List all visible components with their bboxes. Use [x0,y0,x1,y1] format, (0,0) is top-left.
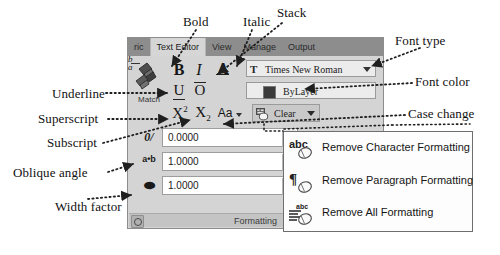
panel-dialog-launcher-icon[interactable] [131,215,144,228]
remove-all-formatting-icon: abc [288,202,318,228]
subscript-mark: 2 [206,113,211,123]
tab-output[interactable]: Output [282,38,321,56]
oblique-angle-row: 0/ 0.0000 [138,128,298,148]
oblique-angle-icon: 0/ [138,130,160,145]
subscript-base: X [195,104,206,120]
clear-button[interactable]: Clear [252,104,320,122]
tab-manage[interactable]: Manage [237,38,282,56]
annotation-font-color: Font color [415,74,470,90]
stack-button[interactable]: A [215,61,231,77]
tracking-icon: a•b [138,154,160,164]
annotation-underline: Underline [52,86,105,102]
annotation-case-change: Case change [408,106,474,122]
match-label: Match [131,95,167,104]
bold-button[interactable]: B [172,62,186,78]
case-change-chevron-down-icon[interactable] [236,113,242,117]
font-color-value: ByLayer [283,86,318,97]
annotation-font-type: Font type [395,33,445,49]
tracking-row: a•b 1.0000 [138,152,298,172]
oblique-angle-field[interactable]: 0.0000 [162,128,298,147]
panel-title: Formatting [234,216,277,226]
width-factor-icon: ⬬ [138,178,160,194]
italic-button[interactable]: I [194,62,204,78]
menu-item-remove-all-formatting[interactable]: abc Remove All Formatting [288,200,472,230]
svg-text:¶: ¶ [289,171,297,187]
font-type-combobox[interactable]: T Times New Roman [246,60,376,77]
subscript-button[interactable]: X2 [195,105,211,123]
width-factor-field[interactable]: 1.0000 [162,176,298,195]
menu-item-label: Remove Paragraph Formatting [322,174,473,186]
width-factor-row: ⬬ 1.0000 [138,176,298,196]
menu-item-label: Remove Character Formatting [322,141,470,153]
menu-item-remove-character-formatting[interactable]: abc Remove Character Formatting [288,135,472,165]
font-color-swatch [263,86,276,99]
oblique-angle-value: 0.0000 [168,132,199,143]
remove-character-formatting-icon: abc [288,137,318,163]
tab-view[interactable]: View [206,38,237,56]
ribbon-tab-bar: ric Text Editor View Manage Output [128,38,383,56]
case-change-button[interactable]: Aa [216,107,234,119]
overline-button[interactable]: O [193,83,207,98]
clear-formatting-icon [256,107,269,120]
annotation-oblique-angle: Oblique angle [13,165,88,181]
font-type-icon: T [250,63,257,75]
width-factor-value: 1.0000 [168,180,199,191]
underline-button[interactable]: U [172,83,186,98]
tracking-value: 1.0000 [168,156,199,167]
clear-button-label: Clear [274,108,296,119]
tab-text-editor[interactable]: Text Editor [150,38,207,56]
font-color-combobox[interactable]: ByLayer [246,82,376,99]
annotation-width-factor: Width factor [55,199,122,215]
tracking-field[interactable]: 1.0000 [162,152,298,171]
superscript-mark: 2 [183,104,188,114]
annotation-superscript: Superscript [38,111,98,127]
superscript-button[interactable]: X2 [172,105,188,121]
font-type-value: Times New Roman [265,64,342,75]
menu-item-remove-paragraph-formatting[interactable]: ¶ Remove Paragraph Formatting [288,168,472,198]
annotation-subscript: Subscript [47,135,97,151]
match-properties-icon[interactable] [132,60,166,94]
annotation-stack: Stack [277,5,306,21]
superscript-base: X [172,105,183,121]
svg-text:abc: abc [296,203,308,210]
annotation-italic: Italic [243,14,270,30]
font-type-chevron-down-icon[interactable] [363,67,371,72]
menu-item-label: Remove All Formatting [322,206,433,218]
clear-chevron-down-icon[interactable] [307,111,315,116]
clear-dropdown-menu: abc Remove Character Formatting ¶ Remove… [283,131,473,232]
remove-paragraph-formatting-icon: ¶ [288,170,318,196]
annotation-bold: Bold [183,14,209,30]
